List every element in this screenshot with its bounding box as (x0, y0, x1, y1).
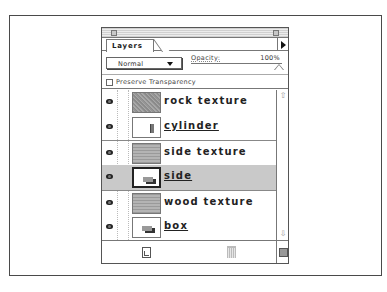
palette-footer (102, 240, 288, 263)
layer-row[interactable]: cylinder (102, 115, 276, 140)
box-shape-icon (142, 226, 152, 231)
eye-icon[interactable] (106, 200, 113, 205)
layer-thumbnail (132, 193, 161, 214)
eye-icon[interactable] (106, 150, 113, 155)
cylinder-shape-icon (150, 124, 154, 133)
layers-scrollbar[interactable]: ⇧ ⇩ (276, 90, 288, 240)
opacity-value: 100% (260, 54, 280, 62)
tab-layers[interactable]: Layers (106, 39, 154, 52)
blend-mode-dropdown[interactable]: Normal (106, 57, 182, 69)
tab-row: Layers (102, 38, 288, 51)
eye-icon[interactable] (106, 124, 113, 129)
layer-thumbnail (132, 117, 161, 138)
zoom-box-icon[interactable] (273, 30, 279, 36)
opacity-slider-track[interactable] (191, 63, 282, 64)
layers-palette: Layers Normal Opacity: 100% Preserve Tra… (101, 27, 289, 264)
layer-thumbnail (132, 167, 161, 188)
preserve-transparency-label: Preserve Transparency (116, 78, 196, 86)
layer-name: side (164, 170, 192, 181)
close-box-icon[interactable] (111, 30, 117, 36)
layer-row-selected[interactable]: side (102, 165, 276, 190)
layer-name: box (164, 220, 188, 231)
layers-list: rock texture cylinder side texture side … (102, 90, 276, 240)
palette-titlebar[interactable] (102, 28, 288, 38)
eye-icon[interactable] (106, 174, 113, 179)
layer-name: wood texture (164, 196, 254, 207)
opacity-label: Opacity: (191, 54, 220, 62)
trash-icon[interactable] (227, 246, 236, 258)
palette-menu-arrow-icon[interactable] (277, 38, 288, 51)
layer-thumbnail (132, 92, 161, 113)
preserve-transparency-checkbox[interactable] (106, 79, 113, 86)
dropdown-arrow-icon (167, 62, 173, 66)
scroll-down-arrow-icon[interactable]: ⇩ (278, 229, 288, 239)
blend-mode-value: Normal (118, 60, 143, 68)
scroll-up-arrow-icon[interactable]: ⇧ (278, 91, 288, 101)
new-layer-icon[interactable] (142, 247, 151, 258)
layer-options: Normal Opacity: 100% (102, 52, 288, 75)
preserve-transparency-row: Preserve Transparency (102, 76, 288, 89)
layer-name: rock texture (164, 95, 248, 106)
layer-row[interactable]: box (102, 215, 276, 240)
layer-row[interactable]: rock texture (102, 90, 276, 115)
box-shape-icon (143, 177, 153, 182)
layer-name: side texture (164, 146, 247, 157)
eye-icon[interactable] (106, 224, 113, 229)
layer-row[interactable]: wood texture (102, 190, 276, 215)
tab-edge (153, 39, 170, 52)
opacity-slider-thumb-fill (275, 65, 283, 70)
resize-handle-icon[interactable] (276, 241, 288, 263)
layer-thumbnail (132, 143, 161, 164)
layer-name: cylinder (164, 120, 219, 131)
layer-thumbnail (132, 217, 161, 238)
layer-row[interactable]: side texture (102, 140, 276, 165)
eye-icon[interactable] (106, 99, 113, 104)
